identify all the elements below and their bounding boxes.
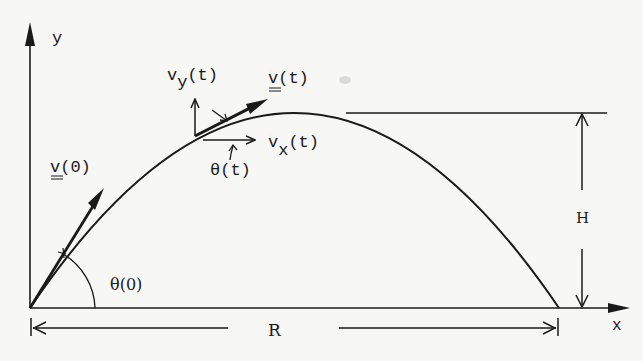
projectile-diagram: y x v(0) θ(0) v(t) vy(t) vx(t) θ(t)	[0, 0, 643, 361]
vy-label-sub: y	[177, 73, 187, 92]
vy-label: vy(t)	[167, 66, 218, 92]
scan-smudge	[339, 76, 351, 84]
height-label: H	[576, 209, 589, 227]
initial-angle-arc	[63, 254, 95, 308]
velocity-arrow-icon	[246, 99, 268, 114]
x-axis-label: x	[612, 317, 622, 335]
range-dimension	[31, 318, 558, 336]
y-axis	[25, 22, 35, 308]
theta-t-label: θ(t)	[210, 161, 251, 180]
initial-angle-label: θ(0)	[110, 275, 142, 294]
vx-label: vx(t)	[268, 133, 319, 160]
velocity-label: v(t)	[268, 69, 309, 88]
range-label: R	[268, 320, 282, 340]
initial-velocity-vector	[30, 188, 104, 308]
initial-velocity-label: v(0)	[50, 158, 91, 177]
vx-label-arg: (t)	[288, 133, 319, 152]
x-axis-arrow-icon	[608, 303, 630, 313]
vy-label-arg: (t)	[187, 66, 218, 85]
vy-label-main: v	[167, 66, 177, 85]
y-axis-label: y	[52, 29, 62, 48]
x-axis	[30, 303, 630, 313]
initial-velocity-arrow-icon	[88, 188, 104, 210]
vx-label-sub: x	[278, 141, 288, 160]
velocity-angle-pointer	[212, 110, 226, 120]
y-axis-arrow-icon	[25, 22, 35, 46]
vx-label-main: v	[268, 133, 278, 152]
